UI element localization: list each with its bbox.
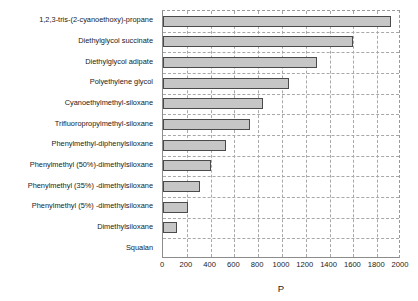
- x-tick-label: 2000: [392, 260, 409, 270]
- bar: [163, 140, 226, 151]
- category-axis-labels: 1,2,3-tris-(2-cyanoethoxy)-propaneDiethy…: [0, 10, 157, 258]
- bar-row: [163, 197, 401, 218]
- category-label: Phenylmethyl (50%)-dimethylsiloxane: [0, 160, 153, 169]
- x-tick-label: 1600: [344, 260, 361, 270]
- x-tick-label: 1800: [368, 260, 385, 270]
- x-tick-label: 200: [179, 260, 192, 270]
- category-label: Squalan: [0, 243, 153, 252]
- bar-row: [163, 176, 401, 197]
- bar-row: [163, 94, 401, 115]
- x-tick-label: 600: [227, 260, 240, 270]
- bar: [163, 160, 211, 171]
- bar: [163, 98, 263, 109]
- category-label: Diethylglycol adipate: [0, 57, 153, 66]
- x-tick-label: 1200: [296, 260, 313, 270]
- x-tick-label: 1400: [320, 260, 337, 270]
- bar: [163, 202, 188, 213]
- category-label: Cyanoethylmethyl-siloxane: [0, 98, 153, 107]
- bar-row: [163, 238, 401, 259]
- bar-row: [163, 135, 401, 156]
- x-axis-title: P: [162, 283, 400, 294]
- bar-series: [163, 11, 399, 257]
- category-label: Trifluoropropylmethyl-siloxane: [0, 119, 153, 128]
- bar: [163, 57, 317, 68]
- bar: [163, 181, 200, 192]
- x-tick-label: 0: [160, 260, 164, 270]
- category-label: Phenylmethyl-diphenylsiloxane: [0, 139, 153, 148]
- category-label: Dimethylsiloxane: [0, 222, 153, 231]
- bar-row: [163, 218, 401, 239]
- bar-chart: 1,2,3-tris-(2-cyanoethoxy)-propaneDiethy…: [0, 0, 418, 301]
- plot-area: [162, 10, 400, 258]
- bar-row: [163, 52, 401, 73]
- category-label: Phenylmethyl (35%) -dimethylsiloxane: [0, 181, 153, 190]
- value-axis-ticks: 0200400600800100012001400160018002000: [0, 260, 418, 274]
- x-tick-label: 400: [203, 260, 216, 270]
- bar-row: [163, 114, 401, 135]
- bar-row: [163, 32, 401, 53]
- bar: [163, 78, 289, 89]
- x-tick-label: 800: [251, 260, 264, 270]
- bar-row: [163, 11, 401, 32]
- x-tick-label: 1000: [273, 260, 290, 270]
- bar-row: [163, 156, 401, 177]
- bar: [163, 36, 353, 47]
- category-label: Diethylglycol succinate: [0, 36, 153, 45]
- bar-row: [163, 73, 401, 94]
- category-label: 1,2,3-tris-(2-cyanoethoxy)-propane: [0, 15, 153, 24]
- bar: [163, 222, 177, 233]
- bar: [163, 16, 391, 27]
- category-label: Phenylmethyl (5%) -dimethylsiloxane: [0, 201, 153, 210]
- category-label: Polyethylene glycol: [0, 77, 153, 86]
- bar: [163, 119, 250, 130]
